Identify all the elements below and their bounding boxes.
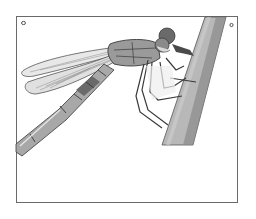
corner-mark-top-right	[230, 23, 233, 26]
corner-mark-top-left	[22, 21, 26, 24]
leg-highlight	[146, 66, 176, 100]
insect-illustration	[0, 0, 256, 219]
insect-head	[155, 28, 194, 56]
